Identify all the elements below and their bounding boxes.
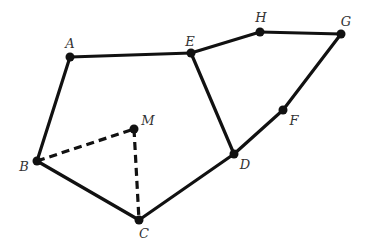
label-g: G <box>341 14 351 29</box>
label-a: A <box>64 36 74 51</box>
point-labels: AEHGFDCBM <box>18 10 351 241</box>
dashed-edges <box>37 129 139 220</box>
point-a <box>66 53 75 62</box>
point-b <box>33 157 42 166</box>
point-d <box>230 150 239 159</box>
segment-mc <box>134 129 139 220</box>
segment-hg <box>260 32 341 34</box>
geometry-diagram: AEHGFDCBM <box>0 0 370 250</box>
segment-ba <box>37 57 70 161</box>
segment-cb <box>37 161 139 220</box>
segment-fd <box>234 110 283 154</box>
label-d: D <box>239 157 251 172</box>
point-f <box>279 106 288 115</box>
point-m <box>130 125 139 134</box>
point-h <box>256 28 265 37</box>
segment-eh <box>191 32 260 53</box>
point-e <box>187 49 196 58</box>
label-b: B <box>18 159 29 174</box>
label-f: F <box>288 113 299 128</box>
segment-gf <box>283 34 341 110</box>
segment-bm <box>37 129 134 161</box>
point-g <box>337 30 346 39</box>
label-e: E <box>184 34 195 49</box>
point-c <box>135 216 144 225</box>
label-h: H <box>254 10 267 25</box>
label-c: C <box>139 226 149 241</box>
label-m: M <box>140 113 155 128</box>
segment-ae <box>70 53 191 57</box>
segment-dc <box>139 154 234 220</box>
segment-ed <box>191 53 234 154</box>
